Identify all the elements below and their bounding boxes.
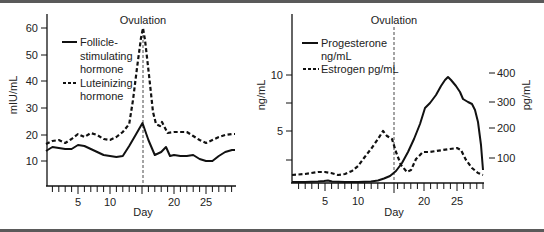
y-tick-label: 100 — [497, 152, 515, 164]
x-tick-label: 5 — [322, 195, 328, 207]
left-y-tick-labels: 60 50 40 30 20 10 — [26, 22, 38, 167]
right-x-ticks — [299, 183, 483, 193]
x-tick-label: 10 — [352, 195, 364, 207]
x-tick-label: 5 — [75, 196, 81, 208]
y-tick-label: 20 — [26, 129, 38, 141]
progesterone-line — [292, 77, 483, 182]
legend-progesterone-label: Progesterone ng/mL — [321, 37, 390, 62]
legend-lh-label: Luteinizing hormone — [80, 77, 136, 102]
right-chart: 10 5 ng/mL 400 300 200 100 pg/mL — [255, 14, 532, 218]
y-tick-label: 40 — [26, 75, 38, 87]
y-tick-label: 10 — [26, 155, 38, 167]
right-left-y-tick-labels: 10 5 — [271, 69, 283, 137]
right-left-y-axis-label: ng/mL — [255, 80, 267, 111]
left-x-ticks — [52, 186, 231, 194]
right-x-axis-label: Day — [384, 206, 404, 218]
right-right-y-axis-label: pg/mL — [520, 80, 532, 111]
right-right-y-tick-labels: 400 300 200 100 — [497, 67, 515, 164]
y-tick-label: 400 — [497, 67, 515, 79]
left-chart: 60 50 40 30 20 10 mIU/mL — [7, 14, 236, 218]
estrogen-line — [292, 131, 483, 175]
left-ovulation-label: Ovulation — [120, 14, 166, 26]
x-tick-label: 10 — [104, 196, 116, 208]
left-y-ticks — [41, 28, 47, 161]
x-tick-label: 20 — [418, 195, 430, 207]
y-tick-label: 5 — [277, 125, 283, 137]
y-tick-label: 60 — [26, 22, 38, 34]
y-tick-label: 30 — [26, 102, 38, 114]
x-tick-label: 25 — [200, 196, 212, 208]
legend-fsh-label: Follicle- stimulating hormone — [80, 36, 136, 75]
y-tick-label: 300 — [497, 96, 515, 108]
right-ovulation-label: Ovulation — [371, 14, 417, 26]
left-x-axis-label: Day — [133, 206, 153, 218]
left-legend: Follicle- stimulating hormone Luteinizin… — [62, 36, 136, 102]
right-left-y-ticks — [286, 75, 292, 160]
right-right-y-ticks — [489, 73, 495, 158]
right-legend: Progesterone ng/mL Estrogen pg/mL — [302, 37, 399, 75]
y-tick-label: 10 — [271, 69, 283, 81]
y-tick-label: 200 — [497, 122, 515, 134]
x-tick-label: 25 — [451, 195, 463, 207]
figure-canvas: 60 50 40 30 20 10 mIU/mL — [0, 0, 544, 232]
x-tick-label: 20 — [168, 196, 180, 208]
y-tick-label: 50 — [26, 49, 38, 61]
legend-estrogen-label: Estrogen pg/mL — [321, 63, 399, 75]
left-y-axis-label: mIU/mL — [7, 76, 19, 115]
